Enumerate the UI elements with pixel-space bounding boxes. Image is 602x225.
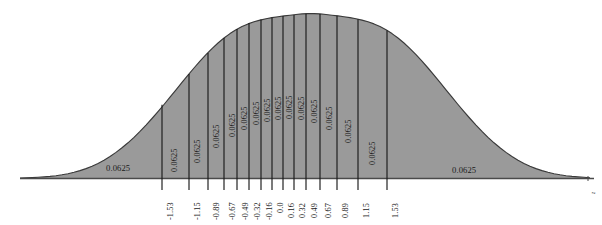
tick-label-z-1.15: 1.15: [362, 203, 371, 218]
normal-distribution-figure: 0.0625 0.0625 0.0625 0.0625 0.0625 0.062…: [0, 0, 602, 225]
tick-label-z-0.0: 0.0: [276, 202, 285, 213]
tick-label-z--1.15: -1.15: [193, 202, 202, 220]
area-label-band-14: 0.0625: [368, 142, 377, 165]
tick-label-z--0.16: -0.16: [265, 202, 274, 220]
tick-label-z-1.53: 1.53: [391, 203, 400, 218]
tick-label-z--0.49: -0.49: [241, 202, 250, 220]
area-label-band-5: 0.0625: [240, 107, 249, 130]
area-label-band-7: 0.0625: [263, 99, 272, 122]
tick-label-z--1.53: -1.53: [166, 202, 175, 220]
area-label-band-3: 0.0625: [212, 125, 221, 148]
area-label-band-9: 0.0625: [285, 96, 294, 119]
tick-label-z--0.32: -0.32: [253, 202, 262, 220]
area-label-band-2: 0.0625: [193, 140, 202, 163]
area-label-band-13: 0.0625: [344, 120, 353, 143]
tick-label-z-0.89: 0.89: [341, 203, 350, 218]
area-label-band-1: 0.0625: [170, 149, 179, 172]
tick-label-z--0.67: -0.67: [228, 202, 237, 220]
area-label-band-11: 0.0625: [310, 100, 319, 123]
area-label-band-8: 0.0625: [274, 97, 283, 120]
tick-label-z-0.49: 0.49: [310, 203, 319, 218]
tick-label-z-0.67: 0.67: [324, 203, 333, 218]
tick-label-z-0.32: 0.32: [298, 203, 307, 218]
tick-label-z-0.16: 0.16: [287, 203, 296, 218]
tick-label-z--0.89: -0.89: [212, 202, 221, 220]
area-label-band-15: 0.0625: [452, 165, 476, 175]
x-axis-label: z: [590, 192, 596, 194]
area-label-band-12: 0.0625: [325, 107, 334, 130]
area-label-band-6: 0.0625: [252, 102, 261, 125]
area-label-band-4: 0.0625: [228, 114, 237, 137]
area-label-band-0: 0.0625: [106, 163, 130, 173]
area-label-band-10: 0.0625: [297, 97, 306, 120]
